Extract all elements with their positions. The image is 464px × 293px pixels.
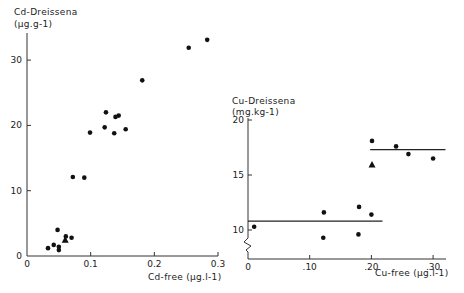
x-tick-label: 0.1	[84, 259, 98, 269]
circle-marker	[394, 144, 399, 149]
y-tick-label: 20	[233, 115, 245, 125]
right-y-axis-with-break	[244, 118, 251, 259]
circle-marker	[46, 246, 51, 251]
circle-marker	[252, 224, 257, 229]
left-data-points	[46, 38, 210, 253]
right-chart: Cu-Dreissena (mg.kg-1) 1015200.10.20.30 …	[232, 96, 448, 278]
circle-marker	[321, 235, 326, 240]
x-tick-label: 0.3	[211, 259, 225, 269]
left-y-unit: (μg.g-1)	[14, 19, 52, 29]
circle-marker	[82, 175, 87, 180]
circle-marker	[140, 78, 145, 83]
y-tick-label: 20	[11, 120, 23, 130]
circle-marker	[357, 205, 362, 210]
circle-marker	[116, 113, 121, 118]
triangle-marker	[369, 161, 376, 168]
circle-marker	[102, 125, 107, 130]
circle-marker	[186, 45, 191, 50]
right-y-label: Cu-Dreissena	[232, 96, 295, 106]
circle-marker	[123, 127, 128, 132]
y-tick-label: 15	[233, 170, 244, 180]
y-tick-label: 10	[233, 225, 245, 235]
circle-marker	[369, 212, 374, 217]
right-ticks: 1015200.10.20.30	[233, 115, 441, 272]
circle-marker	[71, 175, 76, 180]
circle-marker	[104, 110, 109, 115]
y-tick-label: 30	[11, 55, 23, 65]
circle-marker	[55, 228, 60, 233]
circle-marker	[51, 243, 56, 248]
circle-marker	[406, 152, 411, 157]
right-x-label: Cu-free (μg.l-1)	[375, 268, 448, 278]
chart-canvas: Cd-Dreissena (μg.g-1) 010203000.10.20.3 …	[0, 0, 464, 293]
circle-marker	[57, 248, 62, 253]
x-tick-label: 0	[245, 262, 251, 272]
right-data-points	[252, 139, 436, 240]
left-y-label: Cd-Dreissena	[14, 7, 77, 17]
x-tick-label: .10	[303, 262, 318, 272]
circle-marker	[205, 38, 210, 43]
left-x-label: Cd-free (μg.l-1)	[148, 272, 221, 282]
circle-marker	[370, 139, 375, 144]
circle-marker	[431, 156, 436, 161]
x-tick-label: 0	[24, 259, 30, 269]
circle-marker	[88, 130, 93, 135]
y-tick-label: 10	[11, 186, 23, 196]
circle-marker	[322, 210, 327, 215]
circle-marker	[69, 235, 74, 240]
left-chart: Cd-Dreissena (μg.g-1) 010203000.10.20.3 …	[11, 7, 226, 282]
x-tick-label: 0.2	[147, 259, 161, 269]
circle-marker	[356, 232, 361, 237]
y-tick-label: 0	[16, 251, 22, 261]
left-ticks: 010203000.10.20.3	[11, 55, 226, 269]
right-reference-lines	[248, 150, 445, 222]
circle-marker	[112, 131, 117, 136]
